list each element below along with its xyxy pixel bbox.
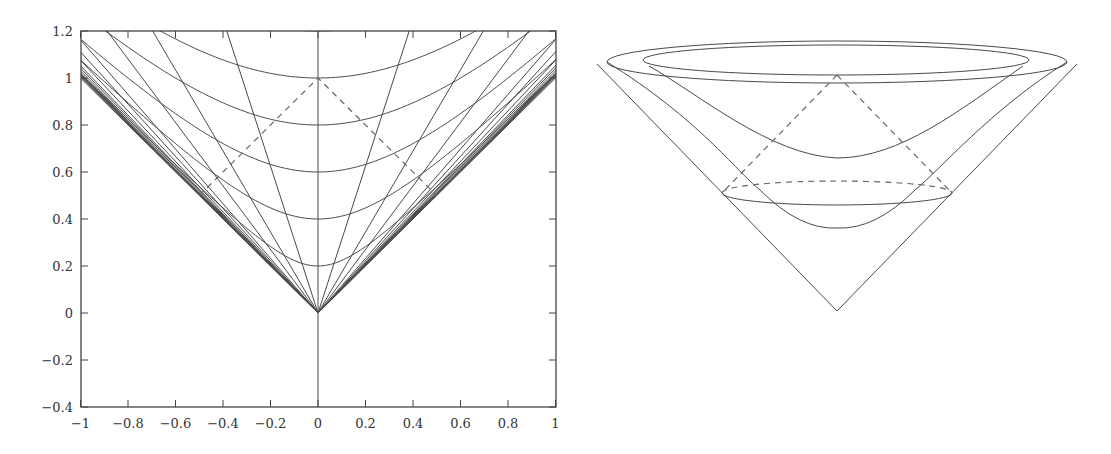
x-axis-tick-labels: −1−0.8−0.6−0.4−0.200.20.40.60.81 <box>71 416 560 431</box>
past-light-cone-right <box>837 75 952 193</box>
cone-edge-left <box>597 64 837 311</box>
rim-ellipse-outer <box>607 41 1067 83</box>
y-tick-label: 0.8 <box>52 118 73 133</box>
x-tick-label: −1 <box>71 416 90 431</box>
x-tick-label: −0.6 <box>160 416 192 431</box>
worldline <box>318 0 669 313</box>
x-tick-label: −0.8 <box>112 416 144 431</box>
y-tick-label: −0.2 <box>41 353 73 368</box>
y-tick-label: 1 <box>65 71 73 86</box>
cone-edge-right <box>837 64 1077 311</box>
x-tick-label: 0.6 <box>450 416 471 431</box>
x-tick-label: −0.4 <box>207 416 239 431</box>
worldline <box>318 0 660 313</box>
x-tick-label: 0.4 <box>403 416 424 431</box>
slice-ellipse-front <box>722 193 952 205</box>
worldline <box>318 0 649 313</box>
worldline <box>318 0 582 313</box>
worldline <box>111 0 318 313</box>
rim-ellipse-inner <box>643 45 1029 75</box>
x-tick-label: 0.8 <box>498 416 519 431</box>
y-tick-label: 0.4 <box>52 212 73 227</box>
worldline <box>318 0 432 313</box>
worldline <box>318 0 667 313</box>
y-tick-label: 1.2 <box>52 24 73 39</box>
y-tick-label: 0.2 <box>52 259 73 274</box>
y-axis-tick-labels: 1.210.80.60.40.20−0.2−0.4 <box>41 24 73 415</box>
figure-canvas: −1−0.8−0.6−0.4−0.200.20.40.60.81 1.210.8… <box>0 0 1111 454</box>
worldline <box>318 0 671 313</box>
worldline <box>318 0 525 313</box>
worldline <box>318 0 672 313</box>
worldline <box>318 0 674 313</box>
x-tick-label: 0 <box>314 416 322 431</box>
y-tick-label: 0.6 <box>52 165 73 180</box>
light-cone-3d <box>597 41 1077 311</box>
y-tick-label: 0 <box>65 306 73 321</box>
plot-curves <box>0 0 674 407</box>
worldline <box>204 0 318 313</box>
worldline <box>54 0 318 313</box>
past-light-cone-left <box>722 75 837 193</box>
x-tick-label: 0.2 <box>355 416 376 431</box>
x-tick-label: −0.2 <box>255 416 287 431</box>
y-tick-label: −0.4 <box>41 400 73 415</box>
worldline <box>318 0 664 313</box>
hyperbola-curve <box>69 0 568 31</box>
spacetime-diagram-2d: −1−0.8−0.6−0.4−0.200.20.40.60.81 1.210.8… <box>0 0 674 431</box>
x-tick-label: 1 <box>551 416 559 431</box>
worldline <box>0 0 318 313</box>
